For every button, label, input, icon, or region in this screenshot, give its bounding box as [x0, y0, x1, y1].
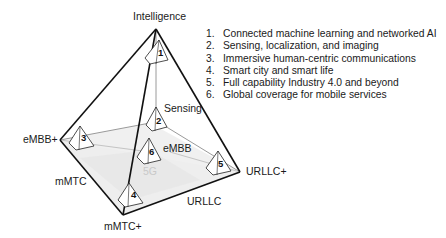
- legend-number: 3.: [206, 53, 223, 65]
- legend-number: 2.: [206, 40, 223, 52]
- legend-text: Immersive human-centric communications: [223, 53, 416, 65]
- edge-apex-left: [60, 29, 156, 140]
- legend-item: 1.Connected machine learning and network…: [206, 28, 437, 40]
- label-embb-plus: eMBB+: [23, 134, 58, 145]
- legend-number: 4.: [206, 65, 223, 77]
- label-mmtc: mMTC: [55, 176, 87, 187]
- legend-text: Smart city and smart life: [223, 65, 333, 77]
- svg-text:6: 6: [149, 146, 154, 157]
- legend-number: 5.: [206, 77, 223, 89]
- legend-number: 1.: [206, 28, 223, 40]
- label-mmtc-plus: mMTC+: [104, 221, 142, 232]
- legend-text: Global coverage for mobile services: [223, 89, 387, 101]
- legend-item: 6.Global coverage for mobile services: [206, 89, 437, 101]
- legend-text: Connected machine learning and networked…: [223, 28, 437, 40]
- legend-number: 6.: [206, 89, 223, 101]
- label-embb: eMBB: [163, 143, 192, 154]
- legend-item: 2.Sensing, localization, and imaging: [206, 40, 437, 52]
- label-urllc: URLLC: [187, 196, 221, 207]
- svg-text:4: 4: [131, 189, 137, 200]
- legend-text: Full capability Industry 4.0 and beyond: [223, 77, 399, 89]
- svg-text:5: 5: [218, 158, 224, 169]
- legend-item: 4.Smart city and smart life: [206, 65, 437, 77]
- legend-text: Sensing, localization, and imaging: [223, 40, 379, 52]
- svg-text:3: 3: [81, 132, 86, 143]
- legend-item: 3.Immersive human-centric communications: [206, 53, 437, 65]
- label-intelligence: Intelligence: [133, 11, 186, 22]
- label-5g: 5G: [143, 166, 157, 177]
- marker-5: 5: [206, 151, 231, 175]
- svg-text:2: 2: [156, 115, 161, 126]
- label-sensing: Sensing: [164, 103, 202, 114]
- legend: 1.Connected machine learning and network…: [206, 28, 437, 102]
- legend-item: 5.Full capability Industry 4.0 and beyon…: [206, 77, 437, 89]
- label-urllc-plus: URLLC+: [246, 166, 287, 177]
- svg-text:1: 1: [158, 47, 164, 58]
